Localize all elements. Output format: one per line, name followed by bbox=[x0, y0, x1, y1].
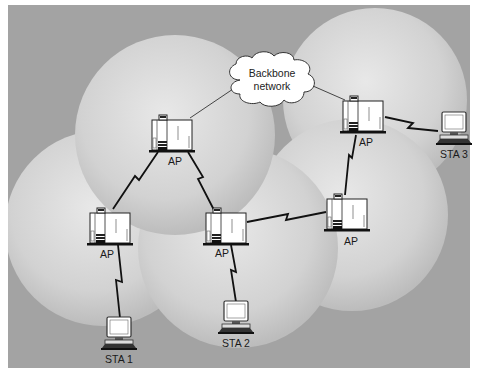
station-label: STA 3 bbox=[440, 148, 468, 160]
ap-label: AP bbox=[215, 247, 229, 259]
access-point-icon bbox=[87, 208, 133, 246]
ap-label: AP bbox=[168, 155, 182, 167]
station-label: STA 2 bbox=[222, 337, 250, 349]
access-point-icon bbox=[203, 208, 249, 246]
ap-label: AP bbox=[100, 248, 114, 260]
backbone-label-line2: network bbox=[254, 80, 292, 92]
access-point-icon bbox=[324, 194, 370, 232]
ap-label: AP bbox=[344, 235, 358, 247]
ap-label: AP bbox=[359, 136, 373, 148]
access-point-icon bbox=[340, 96, 386, 134]
access-point-icon bbox=[149, 115, 195, 153]
network-diagram: Backbone network AP AP AP AP AP STA 1 ST… bbox=[0, 0, 479, 375]
backbone-label-line1: Backbone bbox=[249, 67, 296, 79]
station-label: STA 1 bbox=[105, 353, 133, 365]
backbone-cloud: Backbone network bbox=[230, 52, 315, 107]
